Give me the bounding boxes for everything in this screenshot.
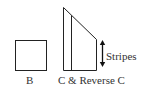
double-arrow-vertical-icon [100,40,105,67]
shape-b-label: B [26,75,33,86]
shape-c-label: C & Reverse C [58,75,125,86]
shape-b-square [16,41,47,71]
stripes-label: Stripes [106,51,137,62]
shape-c-trapezoid [64,8,97,71]
